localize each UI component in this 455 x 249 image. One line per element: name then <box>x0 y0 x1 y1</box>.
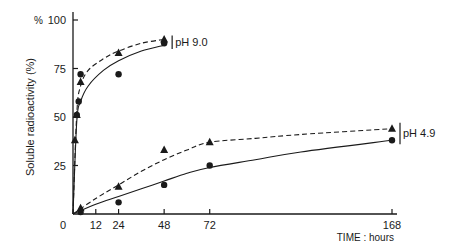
circle-marker <box>161 182 167 188</box>
annotations: pH 9.0pH 4.9 <box>172 36 435 145</box>
triangle-marker <box>206 138 214 146</box>
x-tick-label: 168 <box>383 219 401 231</box>
radioactivity-chart: 255075100% 012244872168 pH 9.0pH 4.9 Sol… <box>0 0 455 249</box>
circle-marker <box>74 112 80 118</box>
ph-label: pH 9.0 <box>175 36 207 48</box>
x-tick-label: 72 <box>204 219 216 231</box>
y-axis-label: Soluble radioactivity (%) <box>24 58 36 176</box>
circle-marker <box>389 137 395 143</box>
circle-marker <box>207 162 213 168</box>
circle-marker <box>115 199 121 205</box>
ph-label: pH 4.9 <box>403 127 435 139</box>
x-tick-label: 12 <box>90 219 102 231</box>
x-axis: 012244872168 <box>60 209 401 231</box>
circle-marker <box>75 98 81 104</box>
x-tick-label: 24 <box>112 219 124 231</box>
y-tick-label: 50 <box>54 111 66 123</box>
y-tick-label: 100 <box>48 14 66 26</box>
circle-marker <box>161 40 167 46</box>
y-axis: 255075100% <box>34 12 78 214</box>
y-tick-label: 25 <box>54 160 66 172</box>
triangle-marker <box>160 145 168 153</box>
x-tick-label: 48 <box>158 219 170 231</box>
x-axis-label: TIME : hours <box>337 232 394 243</box>
data-points <box>71 35 396 215</box>
triangle-marker <box>71 136 79 144</box>
y-tick-label: 75 <box>54 63 66 75</box>
circle-marker <box>77 71 83 77</box>
triangle-marker <box>388 124 396 132</box>
circle-marker <box>77 209 83 215</box>
x-tick-label: 0 <box>60 219 66 231</box>
y-unit-label: % <box>34 15 43 26</box>
circle-marker <box>115 71 121 77</box>
